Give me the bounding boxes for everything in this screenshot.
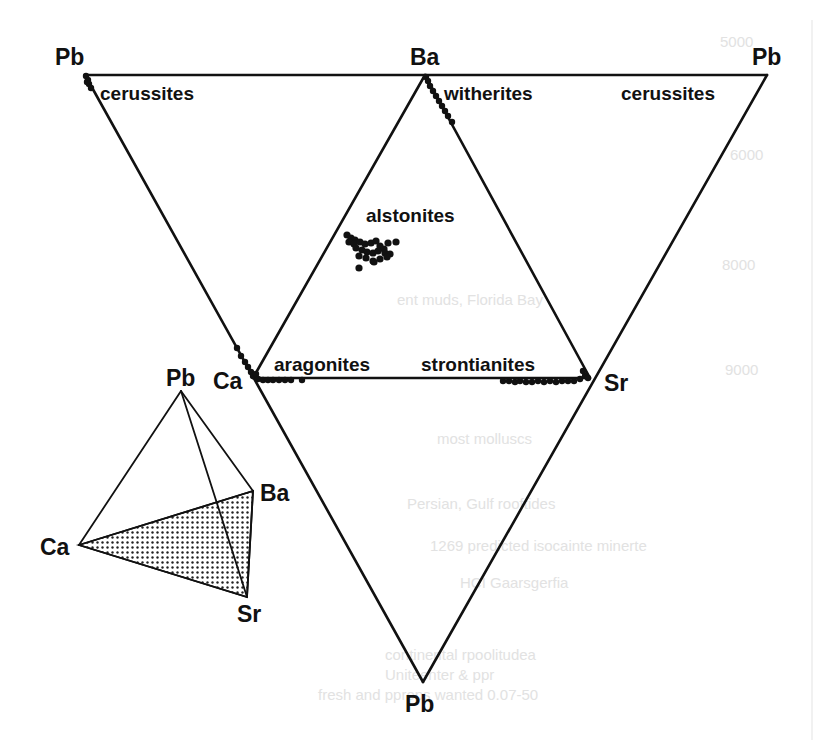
vertex-label-ba-top: Ba (410, 46, 439, 69)
data-point-witherites (445, 113, 451, 119)
bleed-through-text: Persian, Gulf rooftides (407, 495, 555, 512)
data-point-aragonites (282, 377, 288, 383)
data-point-alstonites (362, 254, 369, 261)
vertex-label-pb-top-left: Pb (55, 46, 84, 69)
bleed-through-text: 1269 predicted isocainte minerte (430, 537, 647, 554)
vertex-label-sr: Sr (604, 372, 628, 395)
bleed-through-text: 6000 (730, 146, 763, 163)
inset-label-pb: Pb (166, 367, 195, 390)
data-point-strontianites (565, 378, 571, 384)
bleed-through-text: Uniteenter & ppr (385, 666, 494, 683)
bleed-through-text: ent muds, Florida Bay (397, 291, 543, 308)
data-point-strontianites (547, 378, 553, 384)
inset-tetrahedron (79, 391, 253, 597)
data-point-ca_pb_edge (238, 353, 244, 359)
label-cerussites-right: cerussites (621, 84, 715, 103)
data-point-strontianites (535, 378, 541, 384)
inset-label-ca: Ca (40, 536, 69, 559)
data-point-witherites (449, 119, 455, 125)
data-point-alstonites (392, 238, 399, 245)
data-point-strontianites (506, 378, 512, 384)
bleed-through-text: 5000 (720, 33, 753, 50)
data-point-alstonites (355, 252, 362, 259)
data-point-alstonites (363, 248, 370, 255)
data-point-strontianites (580, 368, 586, 374)
data-point-aragonites (299, 377, 305, 383)
data-point-alstonites (355, 264, 362, 271)
bleed-through-text: most molluscs (437, 430, 532, 447)
inset-label-sr: Sr (237, 603, 261, 626)
data-point-strontianites (559, 378, 565, 384)
ternary-net-diagram: ent muds, Florida Baymost molluscsPersia… (0, 0, 830, 750)
data-point-strontianites (523, 379, 529, 385)
vertex-label-pb-top-right: Pb (752, 46, 781, 69)
data-point-aragonites (288, 377, 294, 383)
bleed-through-text: 8000 (722, 256, 755, 273)
label-aragonites: aragonites (274, 355, 370, 374)
label-alstonites: alstonites (366, 206, 455, 225)
data-point-aragonites (276, 377, 282, 383)
data-point-strontianites (553, 379, 559, 385)
vertex-label-ca: Ca (213, 370, 242, 393)
net-edge-ba_top-ca (253, 75, 425, 378)
data-point-strontianites (529, 379, 535, 385)
label-witherites: witherites (444, 84, 533, 103)
data-point-strontianites (585, 375, 591, 381)
inset-edge-pb-ba (181, 391, 253, 491)
data-point-strontianites (500, 378, 506, 384)
inset-label-ba: Ba (260, 482, 289, 505)
data-point-alstonites (383, 253, 390, 260)
data-point-ca_pb_edge (234, 345, 240, 351)
data-point-strontianites (541, 379, 547, 385)
data-point-alstonites (384, 239, 391, 246)
data-point-alstonites (374, 247, 381, 254)
label-cerussites-left: cerussites (100, 84, 194, 103)
bleed-through-text: 9000 (725, 361, 758, 378)
vertex-label-pb-bottom: Pb (405, 693, 434, 716)
data-point-cerussites (84, 79, 90, 85)
data-point-cerussites (88, 85, 94, 91)
data-point-strontianites (571, 378, 577, 384)
data-point-strontianites (517, 378, 523, 384)
label-strontianites: strontianites (421, 355, 535, 374)
data-point-alstonites (370, 258, 377, 265)
data-point-aragonites (270, 377, 276, 383)
